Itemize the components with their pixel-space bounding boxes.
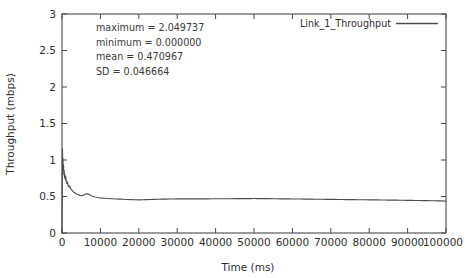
y-tick-label: 2.5: [39, 44, 56, 56]
chart-canvas: 00.511.522.53 01000020000300004000050000…: [0, 0, 465, 278]
y-tick-label: 0.5: [39, 190, 56, 202]
annotation-text: maximum = 2.049737: [96, 22, 204, 33]
x-tick-label: 100000: [423, 236, 463, 248]
x-tick-label: 80000: [352, 236, 385, 248]
legend-label: Link_1_Throughput: [300, 18, 391, 30]
y-tick-label: 1.5: [39, 117, 56, 129]
y-tick-label: 2: [49, 81, 56, 93]
throughput-chart: 00.511.522.53 01000020000300004000050000…: [0, 0, 465, 278]
x-tick-label: 40000: [199, 236, 232, 248]
y-tick-label: 0: [49, 227, 56, 239]
annotation-text: SD = 0.046664: [96, 66, 169, 77]
x-tick-label: 0: [59, 236, 66, 248]
y-axis-title: Throughput (mbps): [4, 73, 16, 176]
x-tick-label: 20000: [122, 236, 155, 248]
x-tick-label: 90000: [391, 236, 424, 248]
y-tick-label: 3: [49, 8, 56, 20]
x-tick-label: 70000: [314, 236, 347, 248]
x-axis-title: Time (ms): [221, 261, 275, 273]
x-tick-label: 60000: [276, 236, 309, 248]
annotation-text: minimum = 0.000000: [96, 37, 201, 48]
x-tick-label: 30000: [160, 236, 193, 248]
y-tick-label: 1: [49, 154, 56, 166]
x-tick-label: 50000: [237, 236, 270, 248]
annotation-text: mean = 0.470967: [96, 51, 183, 62]
x-tick-label: 10000: [84, 236, 117, 248]
